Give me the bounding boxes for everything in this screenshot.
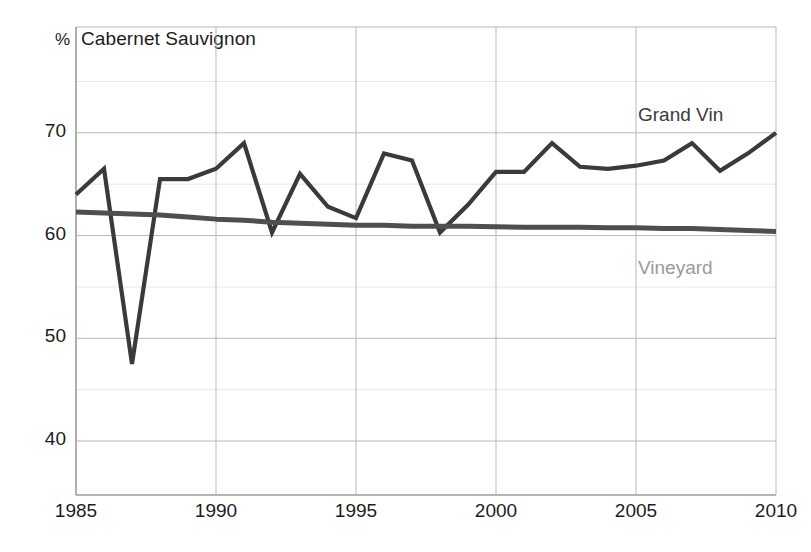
x-tick-label-2000: 2000 bbox=[461, 500, 531, 522]
chart-container: % Cabernet Sauvignon 40506070 1985199019… bbox=[0, 0, 811, 552]
y-tick-label-50: 50 bbox=[22, 325, 66, 347]
x-tick-label-2010: 2010 bbox=[741, 500, 811, 522]
x-tick-label-1990: 1990 bbox=[181, 500, 251, 522]
x-tick-label-1995: 1995 bbox=[321, 500, 391, 522]
y-tick-label-70: 70 bbox=[22, 120, 66, 142]
series-line-vineyard bbox=[76, 212, 776, 232]
x-tick-label-2005: 2005 bbox=[601, 500, 671, 522]
y-tick-label-40: 40 bbox=[22, 428, 66, 450]
data-series bbox=[76, 133, 776, 364]
series-line-grand-vin bbox=[76, 133, 776, 364]
series-label-vineyard: Vineyard bbox=[638, 257, 713, 279]
series-label-grand-vin: Grand Vin bbox=[638, 104, 723, 126]
x-tick-label-1985: 1985 bbox=[41, 500, 111, 522]
y-tick-label-60: 60 bbox=[22, 223, 66, 245]
